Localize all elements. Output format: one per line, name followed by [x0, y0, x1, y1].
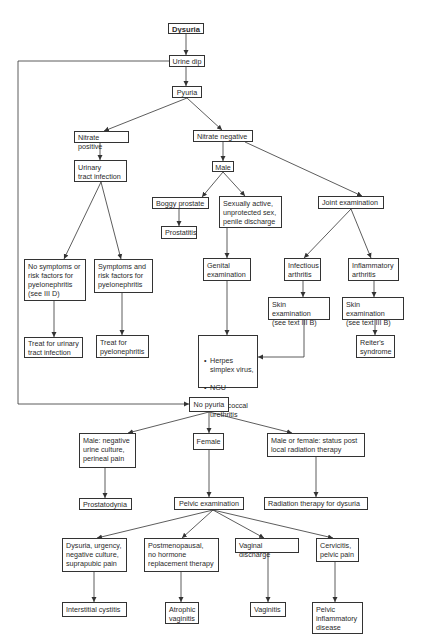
node-radiation-therapy: Radiation therapy for dysuria: [264, 497, 368, 510]
node-genital-examination: Genital examination: [203, 258, 251, 281]
node-treat-uti: Treat for urinary tract infection: [24, 337, 83, 358]
node-atrophic-vaginitis: Atrophic vaginitis: [165, 602, 199, 624]
diagnosis-ngu: NGU: [210, 383, 254, 392]
node-no-pyuria: No pyuria: [189, 397, 229, 412]
node-skin-examination-1: Skin examination (see text III B): [268, 297, 330, 320]
node-skin-examination-2: Skin examination (see text III B): [342, 297, 404, 320]
node-interstitial-cystitis: Interstitial cystitis: [62, 602, 127, 617]
node-symptoms: Symptoms and risk factors for pyelonephr…: [94, 259, 153, 293]
node-urinary-tract-infection: Urinary tract infection: [74, 160, 127, 182]
node-infectious-arthritis: Infectious arthritis: [284, 258, 321, 281]
node-no-symptoms: No symptoms or risk factors for pyelonep…: [24, 259, 86, 301]
node-pyuria: Pyuria: [172, 86, 202, 98]
node-joint-examination: Joint examination: [318, 196, 384, 209]
node-urine-dip: Urine dip: [169, 55, 205, 67]
node-cervicitis: Cervicitis, pelvic pain: [316, 538, 359, 562]
node-male-or-female-radiation: Male or female: status post local radiat…: [267, 433, 365, 457]
diagnosis-herpes: Herpes simplex virus,: [210, 356, 254, 374]
node-prostatitis: Prostatitis: [161, 226, 197, 239]
node-diagnoses-list: Herpes simplex virus, NGU Gonococcal ure…: [198, 335, 258, 388]
node-treat-pyelonephritis: Treat for pyelonephritis: [96, 335, 149, 358]
node-pelvic-examination: Pelvic examination: [174, 497, 244, 510]
node-vaginitis: Vaginitis: [250, 602, 286, 617]
flowchart-canvas: Dysuria Urine dip Pyuria Nitrate positiv…: [0, 0, 421, 642]
node-dysuria: Dysuria: [168, 23, 204, 34]
node-inflammatory-arthritis: Inflammatory arthritis: [348, 258, 399, 281]
node-postmenopausal: Postmenopausal, no hormone replacement t…: [144, 538, 219, 572]
node-sexually-active: Sexually active, unprotected sex, penile…: [219, 196, 282, 228]
node-female: Female: [193, 433, 224, 450]
node-male-negative-culture: Male: negative urine culture, perineal p…: [79, 433, 136, 468]
node-boggy-prostate: Boggy prostate: [152, 197, 209, 209]
node-nitrate-negative: Nitrate negative: [193, 130, 253, 142]
node-pelvic-inflammatory-disease: Pelvic inflammatory disease: [312, 602, 363, 634]
node-nitrate-positive: Nitrate positive: [74, 131, 129, 143]
node-vaginal-discharge: Vaginal discharge: [235, 538, 299, 553]
node-dysuria-urgency: Dysuria, urgency, negative culture, supr…: [62, 538, 127, 572]
node-male: Male: [212, 161, 234, 172]
node-reiters-syndrome: Reiter's syndrome: [356, 335, 395, 358]
node-prostatodynia: Prostatodynia: [79, 498, 132, 510]
